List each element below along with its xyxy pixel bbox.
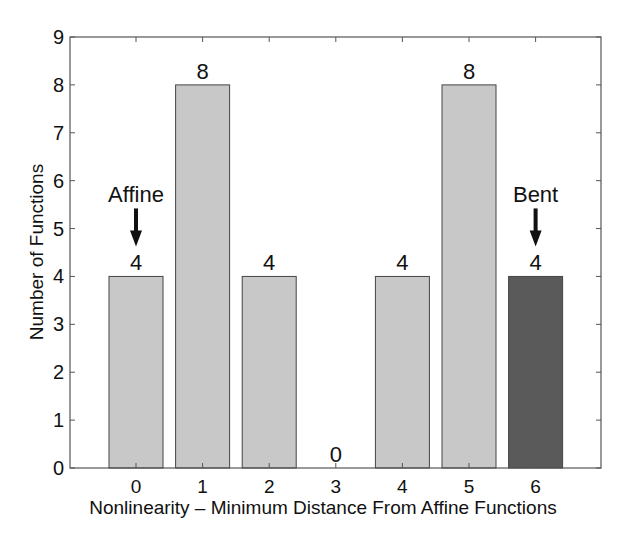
y-tick-label: 8: [53, 74, 64, 96]
y-tick-label: 0: [53, 457, 64, 479]
value-label-1: 8: [196, 59, 208, 84]
y-tick-label: 4: [53, 265, 64, 287]
value-label-3: 0: [330, 442, 342, 467]
x-tick-label: 2: [264, 476, 275, 497]
y-tick-label: 7: [53, 122, 64, 144]
bar-2: [242, 276, 296, 468]
x-tick-label: 4: [397, 476, 408, 497]
bars-group: [109, 85, 563, 468]
y-tick-label: 6: [53, 170, 64, 192]
value-label-5: 8: [463, 59, 475, 84]
affine-arrow-head-icon: [130, 230, 142, 246]
value-label-4: 4: [396, 250, 408, 275]
x-tick-label: 1: [197, 476, 208, 497]
x-tick-label: 0: [131, 476, 142, 497]
y-tick-label: 5: [53, 218, 64, 240]
y-axis-label: Number of Functions: [26, 164, 47, 340]
y-tick-label: 1: [53, 409, 64, 431]
y-tick-label: 2: [53, 361, 64, 383]
y-tick-label: 3: [53, 313, 64, 335]
x-tick-label: 5: [464, 476, 475, 497]
x-axis-label: Nonlinearity – Minimum Distance From Aff…: [89, 497, 556, 518]
value-label-6: 4: [529, 250, 541, 275]
bar-5: [442, 85, 496, 468]
bar-0: [109, 276, 163, 468]
value-label-0: 4: [130, 250, 142, 275]
x-tick-label: 6: [530, 476, 541, 497]
bar-chart: 0123456789 0123456 4840484 AffineBent No…: [0, 0, 635, 549]
affine-annotation-label: Affine: [108, 182, 164, 207]
affine-arrow-down-icon: [134, 208, 138, 232]
value-label-2: 4: [263, 250, 275, 275]
y-tick-label: 9: [53, 26, 64, 48]
bent-arrow-down-icon: [534, 208, 538, 232]
x-tick-label: 3: [331, 476, 342, 497]
bent-annotation-label: Bent: [513, 182, 558, 207]
bent-arrow-head-icon: [530, 230, 542, 246]
bar-6: [509, 276, 563, 468]
bar-4: [375, 276, 429, 468]
bar-1: [176, 85, 230, 468]
